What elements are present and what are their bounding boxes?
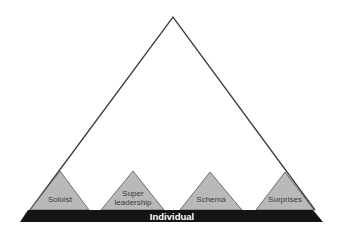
sub-pyramid-label: Soloist — [48, 195, 73, 204]
sub-pyramid-label-line2: leadership — [115, 198, 152, 207]
sub-pyramid-label: Surprises — [268, 195, 302, 204]
sub-pyramid-schema: Schema — [180, 172, 242, 210]
sub-pyramid-label: Schema — [196, 195, 226, 204]
base-bar-label: Individual — [150, 211, 194, 222]
pyramid-diagram: Soloist Super leadership Schema Surprise… — [0, 0, 341, 238]
individual-base-bar: Individual — [20, 210, 323, 222]
sub-pyramid-surprises: Surprises — [256, 172, 314, 210]
main-pyramid-outline — [30, 17, 315, 210]
sub-pyramid-shape — [256, 172, 314, 210]
sub-pyramid-soloist: Soloist — [30, 171, 89, 210]
sub-pyramid-super-leadership: Super leadership — [101, 171, 164, 210]
sub-pyramid-shape — [180, 172, 242, 210]
sub-pyramid-shape — [30, 171, 89, 210]
sub-pyramid-label-line1: Super — [122, 189, 144, 198]
